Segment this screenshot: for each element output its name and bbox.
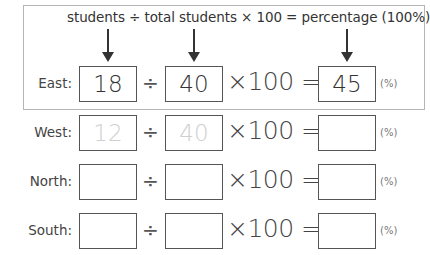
row-north: North: ÷ ×100 = (%) (0, 164, 430, 200)
row-south: South: ÷ ×100 = (%) (0, 213, 430, 249)
total-field[interactable]: 40 (165, 115, 223, 151)
formula-header: students ÷ total students × 100 = percen… (67, 9, 427, 25)
times-100-equals: ×100 = (227, 214, 322, 243)
row-label: West: (34, 124, 72, 140)
students-field[interactable]: 18 (79, 66, 137, 102)
total-field[interactable]: 40 (165, 66, 223, 102)
total-field[interactable] (165, 213, 223, 249)
arrow-down-icon-percentage (346, 29, 348, 54)
row-label: North: (30, 173, 72, 189)
percentage-field[interactable] (318, 164, 376, 200)
percentage-field[interactable] (318, 115, 376, 151)
arrow-down-icon-students (107, 29, 109, 54)
students-field[interactable] (79, 164, 137, 200)
divide-sign: ÷ (142, 169, 159, 193)
row-east: East: 18 ÷ 40 ×100 = 45 (%) (0, 66, 430, 102)
percent-unit: (%) (380, 176, 397, 187)
arrow-down-icon-total (193, 29, 195, 54)
divide-sign: ÷ (142, 218, 159, 242)
percent-unit: (%) (380, 78, 397, 89)
percent-unit: (%) (380, 225, 397, 236)
divide-sign: ÷ (142, 71, 159, 95)
times-100-equals: ×100 = (227, 67, 322, 96)
row-label: East: (38, 75, 72, 91)
students-field[interactable]: 12 (79, 115, 137, 151)
percent-unit: (%) (380, 127, 397, 138)
students-field[interactable] (79, 213, 137, 249)
row-label: South: (28, 222, 72, 238)
percentage-field[interactable]: 45 (318, 66, 376, 102)
times-100-equals: ×100 = (227, 116, 322, 145)
divide-sign: ÷ (142, 120, 159, 144)
percentage-field[interactable] (318, 213, 376, 249)
row-west: West: 12 ÷ 40 ×100 = (%) (0, 115, 430, 151)
times-100-equals: ×100 = (227, 165, 322, 194)
total-field[interactable] (165, 164, 223, 200)
